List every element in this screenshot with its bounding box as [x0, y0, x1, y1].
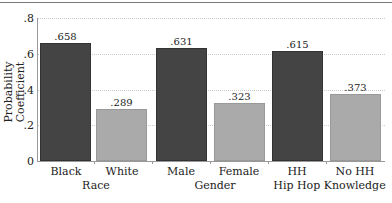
y-tick: .4	[14, 85, 34, 96]
x-tick	[326, 161, 327, 164]
group-label-hip-hop-knowledge: Hip Hop Knowledge	[272, 180, 387, 192]
y-tick: .8	[14, 13, 34, 24]
value-label: .289	[96, 98, 147, 108]
x-label-no-hh: No HH	[326, 166, 384, 178]
x-label-hh: HH	[268, 166, 326, 178]
y-tick: 0	[14, 156, 34, 167]
bar-white	[96, 109, 147, 161]
y-axis	[37, 18, 38, 162]
x-tick	[210, 161, 211, 164]
group-label-gender: Gender	[180, 180, 250, 192]
bar-no-hh	[330, 94, 381, 161]
value-label: .323	[214, 92, 265, 102]
bar-black	[40, 43, 91, 161]
x-label-female: Female	[210, 166, 268, 178]
x-axis	[37, 161, 385, 162]
value-label: .631	[156, 37, 207, 47]
top-rule	[0, 2, 392, 3]
value-label: .615	[272, 40, 323, 50]
x-label-white: White	[93, 166, 151, 178]
x-label-black: Black	[37, 166, 95, 178]
gridline-0.8	[38, 18, 385, 19]
x-label-male: Male	[152, 166, 210, 178]
bar-female	[214, 103, 265, 161]
x-tick	[94, 161, 95, 164]
bar-hh	[272, 51, 323, 161]
y-tick: .2	[14, 120, 34, 131]
x-tick	[268, 161, 269, 164]
bar-male	[156, 48, 207, 161]
y-tick: .6	[14, 49, 34, 60]
group-label-race: Race	[66, 180, 126, 192]
x-tick	[152, 161, 153, 164]
value-label: .373	[330, 83, 381, 93]
value-label: .658	[40, 32, 91, 42]
